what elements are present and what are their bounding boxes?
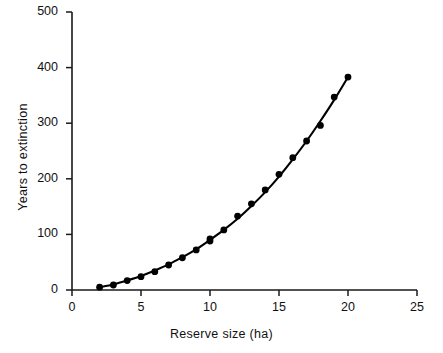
fit-curve xyxy=(100,77,348,287)
data-point xyxy=(193,247,200,254)
plot-area xyxy=(0,0,443,353)
data-point xyxy=(276,171,283,178)
x-tick-marks xyxy=(72,290,417,296)
data-point xyxy=(248,200,255,207)
data-point xyxy=(179,254,186,261)
data-point xyxy=(207,235,214,242)
data-point xyxy=(262,187,269,194)
data-point xyxy=(138,273,145,280)
axis-spines xyxy=(72,12,417,290)
data-point xyxy=(303,138,310,145)
data-point xyxy=(96,284,103,291)
data-point xyxy=(124,277,131,284)
data-point xyxy=(331,94,338,101)
data-point xyxy=(165,262,172,269)
data-point-group xyxy=(96,74,351,291)
data-point xyxy=(234,213,241,220)
data-point xyxy=(151,268,158,275)
data-point xyxy=(289,154,296,161)
data-point xyxy=(317,122,324,129)
y-tick-marks xyxy=(66,12,72,290)
chart-figure: Years to extinction Reserve size (ha) 01… xyxy=(0,0,443,353)
data-point xyxy=(110,282,117,289)
data-point xyxy=(345,74,352,81)
data-point xyxy=(220,227,227,234)
